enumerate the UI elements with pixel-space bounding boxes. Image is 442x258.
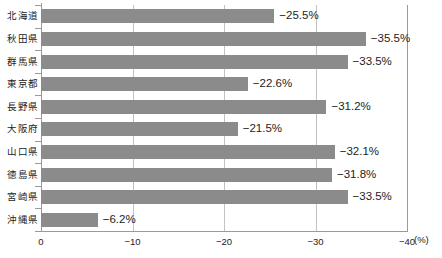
bar <box>41 77 248 91</box>
bar-value-label: −31.2% <box>331 99 370 113</box>
x-tick-label: 0 <box>38 236 43 247</box>
category-label: 秋田県 <box>4 32 38 46</box>
category-label: 群馬県 <box>4 55 38 69</box>
category-tick <box>35 28 41 29</box>
category-tick <box>35 186 41 187</box>
bar <box>41 100 326 114</box>
category-label: 北海道 <box>4 9 38 23</box>
category-label: 東京都 <box>4 77 38 91</box>
category-label: 宮崎県 <box>4 190 38 204</box>
category-label: 徳島県 <box>4 168 38 182</box>
category-tick <box>35 95 41 96</box>
category-tick <box>35 73 41 74</box>
bar <box>41 168 332 182</box>
category-label: 沖縄県 <box>4 213 38 227</box>
category-label: 大阪府 <box>4 122 38 136</box>
category-tick <box>35 208 41 209</box>
x-axis-unit-label: (%) <box>414 234 429 245</box>
bar-value-label: −25.5% <box>279 8 318 22</box>
bar <box>41 55 348 69</box>
plot-area: −25.5%−35.5%−33.5%−22.6%−31.2%−21.5%−32.… <box>41 5 407 231</box>
category-tick <box>35 5 41 6</box>
category-axis: 北海道秋田県群馬県東京都長野県大阪府山口県徳島県宮崎県沖縄県 <box>0 5 38 231</box>
bar-value-label: −33.5% <box>353 54 392 68</box>
bar <box>41 145 335 159</box>
bar <box>41 32 366 46</box>
category-tick <box>35 231 41 232</box>
bar-value-label: −22.6% <box>253 76 292 90</box>
bar <box>41 190 348 204</box>
bar <box>41 213 98 227</box>
x-tick-label: −20 <box>216 236 232 247</box>
category-tick <box>35 141 41 142</box>
x-axis-line <box>41 231 408 232</box>
category-tick <box>35 50 41 51</box>
x-tick-label: −40 <box>399 236 415 247</box>
category-label: 長野県 <box>4 100 38 114</box>
bar-value-label: −21.5% <box>243 121 282 135</box>
bar-value-label: −35.5% <box>371 31 410 45</box>
bar-value-label: −32.1% <box>340 144 379 158</box>
bar-value-label: −6.2% <box>103 212 136 226</box>
bar <box>41 9 274 23</box>
x-tick-label: −30 <box>307 236 323 247</box>
category-tick <box>35 118 41 119</box>
x-tick-label: −10 <box>124 236 140 247</box>
bar <box>41 122 238 136</box>
category-label: 山口県 <box>4 145 38 159</box>
category-tick <box>35 163 41 164</box>
bar-value-label: −33.5% <box>353 189 392 203</box>
bar-value-label: −31.8% <box>337 167 376 181</box>
bar-chart: 北海道秋田県群馬県東京都長野県大阪府山口県徳島県宮崎県沖縄県 −25.5%−35… <box>0 0 442 258</box>
